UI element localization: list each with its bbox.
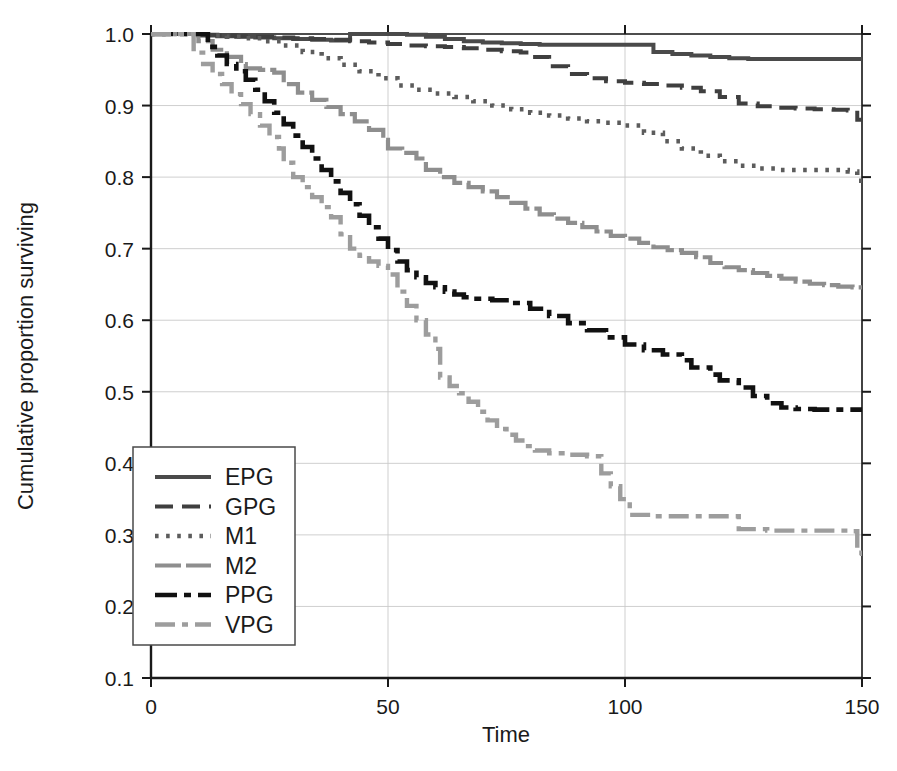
y-tick-label: 0.7 — [105, 238, 134, 261]
x-tick-label: 100 — [607, 695, 642, 718]
y-tick-label: 0.2 — [105, 595, 134, 618]
y-tick-label: 1.0 — [105, 23, 134, 46]
x-axis-title: Time — [482, 722, 530, 747]
legend-label-m1[interactable]: M1 — [225, 523, 257, 549]
y-tick-label: 0.3 — [105, 524, 134, 547]
y-axis-title: Cumulative proportion surviving — [13, 202, 38, 510]
chart-canvas: 0.10.20.30.40.50.60.70.80.91.0050100150 … — [0, 0, 897, 771]
y-tick-label: 0.8 — [105, 166, 134, 189]
y-tick-label: 0.1 — [105, 667, 134, 690]
survival-chart: 0.10.20.30.40.50.60.70.80.91.0050100150 … — [0, 0, 897, 771]
y-tick-label: 0.6 — [105, 309, 134, 332]
legend-label-m2[interactable]: M2 — [225, 553, 257, 579]
legend-label-epg[interactable]: EPG — [225, 464, 274, 490]
chart-legend[interactable]: EPGGPGM1M2PPGVPG — [133, 447, 295, 645]
x-tick-label: 50 — [376, 695, 399, 718]
x-tick-label: 0 — [145, 695, 157, 718]
y-tick-label: 0.9 — [105, 95, 134, 118]
y-tick-label: 0.4 — [105, 452, 135, 475]
x-tick-label: 150 — [844, 695, 879, 718]
legend-label-gpg[interactable]: GPG — [225, 494, 276, 520]
legend-label-ppg[interactable]: PPG — [225, 582, 274, 608]
legend-label-vpg[interactable]: VPG — [225, 612, 274, 638]
y-tick-label: 0.5 — [105, 381, 134, 404]
